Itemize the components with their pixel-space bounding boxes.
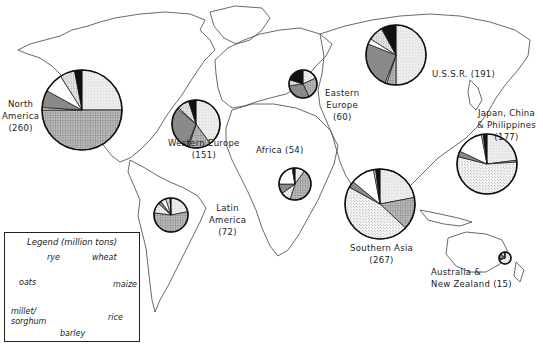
pie-southern-asia: [345, 169, 415, 239]
pie-australia-new-zealand: [499, 252, 511, 264]
label-line: Eastern: [325, 87, 359, 99]
label-line: (267): [350, 254, 413, 266]
label-japan-china: Japan, China & Philippines (177): [477, 107, 536, 143]
label-line: North: [2, 98, 39, 110]
pie-north-america-slice-maize: [42, 110, 122, 150]
label-africa: Africa (54): [256, 144, 304, 156]
label-australia: Australia & New Zealand (15): [431, 266, 512, 290]
label-north-america: North America (260): [2, 98, 39, 134]
legend-label-wheat: wheat: [92, 253, 117, 263]
coastline-greenland: [210, 6, 270, 44]
coastline-indonesia: [420, 210, 472, 226]
label-line: (72): [209, 226, 246, 238]
label-line: & Philippines: [477, 119, 536, 131]
label-latin-america: Latin America (72): [209, 202, 246, 238]
coastline-japan: [468, 80, 482, 110]
label-line: (60): [325, 111, 359, 123]
label-western-europe: Western Europe (151): [168, 137, 240, 161]
label-line: Europe: [325, 99, 359, 111]
legend-label-barley: barley: [60, 329, 85, 339]
pie-latin-america: [154, 198, 188, 232]
label-line: Western Europe: [168, 137, 240, 149]
coastline-new-zealand: [514, 262, 524, 282]
label-line: (151): [168, 149, 240, 161]
legend-label-maize: maize: [113, 280, 137, 290]
pie-u-s-s-r: [366, 25, 426, 85]
legend-label-oats: oats: [19, 278, 36, 288]
label-line: Southern Asia: [350, 242, 413, 254]
label-line: (260): [2, 122, 39, 134]
legend-label-millet: millet/ sorghum: [11, 307, 47, 327]
pie-africa: [279, 168, 311, 200]
legend: Legend (million tons) rye wheat maize ri…: [4, 232, 140, 342]
legend-title: Legend (million tons): [5, 237, 139, 247]
label-ussr: U.S.S.R. (191): [432, 68, 495, 80]
label-line: New Zealand (15): [431, 278, 512, 290]
label-line: Japan, China: [477, 107, 536, 119]
coastline-europe: [215, 28, 332, 108]
pie-eastern-europe: [289, 70, 317, 98]
pie-u-s-s-r-slice-wheat: [396, 25, 426, 85]
label-line: Australia &: [431, 266, 512, 278]
label-eastern-europe: Eastern Europe (60): [325, 87, 359, 123]
label-line: America: [2, 110, 39, 122]
label-line: (177): [477, 131, 536, 143]
label-southern-asia: Southern Asia (267): [350, 242, 413, 266]
pie-japan-china-philippines: [457, 134, 517, 194]
label-line: America: [209, 214, 246, 226]
label-line: Latin: [209, 202, 246, 214]
legend-label-rye: rye: [47, 253, 60, 263]
legend-label-rice: rice: [108, 313, 123, 323]
pie-north-america: [42, 70, 122, 150]
